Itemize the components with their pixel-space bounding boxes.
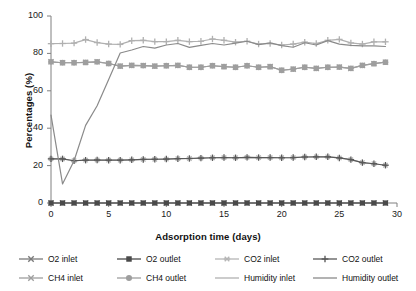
legend-item-o2-outlet[interactable]: O2 outlet bbox=[116, 249, 214, 268]
marker-circle bbox=[256, 64, 262, 70]
marker-circle bbox=[48, 59, 54, 65]
marker-square bbox=[291, 200, 296, 205]
series-marker-plus bbox=[313, 40, 319, 46]
series-marker-square bbox=[60, 200, 65, 205]
marker-circle bbox=[383, 59, 389, 65]
marker-square bbox=[244, 200, 249, 205]
series-marker-plus bbox=[382, 39, 388, 45]
series-marker-square bbox=[152, 200, 157, 205]
legend-item-co2-outlet[interactable]: CO2 outlet bbox=[312, 249, 410, 268]
x-tick-label: 5 bbox=[89, 209, 129, 219]
series-marker-square bbox=[95, 200, 100, 205]
x-axis-title: Adsorption time (days) bbox=[0, 231, 416, 242]
series-o2-outlet bbox=[48, 200, 388, 205]
series-marker-plus bbox=[48, 156, 54, 162]
legend-item-co2-inlet[interactable]: CO2 inlet bbox=[214, 249, 312, 268]
series-line bbox=[51, 62, 385, 70]
series-marker-square bbox=[83, 200, 88, 205]
series-marker-plus bbox=[163, 38, 169, 44]
marker-square bbox=[325, 200, 330, 205]
marker-square bbox=[383, 200, 388, 205]
legend-label: CH4 inlet bbox=[48, 273, 83, 283]
legend-item-o2-inlet[interactable]: O2 inlet bbox=[18, 249, 116, 268]
series-marker-square bbox=[106, 200, 111, 205]
x-tick-label: 25 bbox=[319, 209, 359, 219]
x-tick-label: 20 bbox=[262, 209, 302, 219]
series-marker-plus bbox=[152, 156, 158, 162]
y-axis-title: Percentages (%) bbox=[23, 31, 34, 191]
series-marker-square bbox=[175, 200, 180, 205]
marker-square bbox=[141, 200, 146, 205]
marker-circle bbox=[302, 64, 308, 70]
marker-circle bbox=[210, 63, 216, 69]
legend-item-ch4-outlet[interactable]: CH4 outlet bbox=[116, 268, 214, 287]
marker-square bbox=[106, 200, 111, 205]
marker-square bbox=[314, 200, 319, 205]
series-marker-circle bbox=[290, 66, 296, 72]
series-marker-square bbox=[348, 200, 353, 205]
series-marker-plus bbox=[59, 40, 65, 46]
series-marker-square bbox=[371, 200, 376, 205]
series-marker-circle bbox=[198, 64, 204, 70]
marker-square bbox=[48, 200, 53, 205]
series-marker-circle bbox=[129, 62, 135, 68]
series-marker-square bbox=[187, 200, 192, 205]
marker-square bbox=[152, 200, 157, 205]
marker-circle bbox=[279, 67, 285, 73]
series-marker-circle bbox=[83, 59, 89, 65]
series-marker-circle bbox=[175, 62, 181, 68]
series-marker-plus bbox=[129, 157, 135, 163]
marker-square bbox=[95, 200, 100, 205]
series-marker-square bbox=[221, 200, 226, 205]
series-marker-plus bbox=[371, 161, 377, 167]
marker-circle bbox=[83, 59, 89, 65]
series-marker-circle bbox=[106, 61, 112, 67]
marker-square bbox=[210, 200, 215, 205]
legend-label: O2 outlet bbox=[146, 254, 181, 264]
marker-circle bbox=[163, 63, 169, 69]
legend-label: CO2 outlet bbox=[342, 254, 383, 264]
marker-circle bbox=[313, 65, 319, 71]
series-marker-plus bbox=[198, 38, 204, 44]
series-marker-circle bbox=[60, 60, 66, 66]
series-marker-plus bbox=[48, 40, 54, 46]
series-marker-circle bbox=[336, 64, 342, 70]
legend-item-ch4-inlet[interactable]: CH4 inlet bbox=[18, 268, 116, 287]
marker-square bbox=[337, 200, 342, 205]
chart-plot-area bbox=[0, 0, 416, 291]
series-marker-circle bbox=[371, 61, 377, 67]
series-marker-plus bbox=[255, 154, 261, 160]
series-humidity-inlet bbox=[48, 36, 389, 48]
series-marker-plus bbox=[82, 157, 88, 163]
marker-circle bbox=[106, 61, 112, 67]
series-marker-circle bbox=[302, 64, 308, 70]
marker-square bbox=[268, 200, 273, 205]
series-marker-plus bbox=[278, 155, 284, 161]
series-marker-plus bbox=[186, 155, 192, 161]
marker-circle bbox=[325, 64, 331, 70]
series-marker-plus bbox=[140, 156, 146, 162]
series-marker-plus bbox=[267, 154, 273, 160]
marker-circle bbox=[129, 62, 135, 68]
legend-swatch-cross-icon bbox=[18, 253, 44, 265]
series-marker-plus bbox=[59, 156, 65, 162]
series-marker-plus bbox=[175, 37, 181, 43]
legend-swatch-square-icon bbox=[116, 253, 142, 265]
series-line bbox=[51, 157, 385, 165]
marker-circle bbox=[221, 64, 227, 70]
marker-circle bbox=[140, 63, 146, 69]
series-marker-plus bbox=[105, 41, 111, 47]
marker-square bbox=[60, 200, 65, 205]
series-marker-plus bbox=[313, 154, 319, 160]
series-marker-plus bbox=[94, 39, 100, 45]
series-marker-plus bbox=[221, 37, 227, 43]
series-marker-square bbox=[164, 200, 169, 205]
legend-item-humidity-inlet[interactable]: Humidity inlet bbox=[214, 268, 312, 287]
legend-item-humidity-outlet[interactable]: Humidity outlet bbox=[312, 268, 410, 287]
series-marker-circle bbox=[256, 64, 262, 70]
marker-circle bbox=[60, 60, 66, 66]
series-co2-inlet bbox=[48, 155, 388, 168]
y-tick-label: 0 bbox=[0, 197, 43, 207]
marker-square bbox=[118, 200, 123, 205]
series-marker-plus bbox=[244, 154, 250, 160]
